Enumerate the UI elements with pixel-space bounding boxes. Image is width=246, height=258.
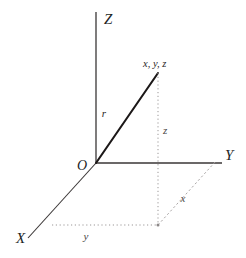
y-component-label: y [83, 230, 89, 242]
x-axis-label: X [15, 230, 26, 246]
diagram-canvas: Z Y X O x, y, z r z y x [0, 0, 246, 258]
x-component-dashed-line [158, 161, 216, 225]
z-component-label: z [162, 124, 168, 136]
position-vector-label: r [102, 107, 107, 119]
x-component-label: x [180, 192, 186, 204]
coordinate-diagram-figure: Z Y X O x, y, z r z y x [0, 0, 246, 258]
z-axis-label: Z [104, 11, 113, 27]
y-axis-label: Y [225, 147, 235, 163]
origin-label: O [77, 158, 87, 173]
point-coordinates-label: x, y, z [142, 58, 166, 69]
projection-foot-marker [157, 224, 160, 227]
x-axis-line [28, 163, 96, 238]
